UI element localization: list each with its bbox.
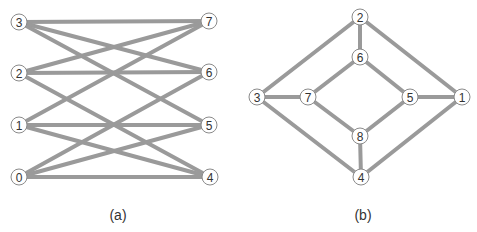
svg-text:7: 7 [206, 15, 213, 29]
svg-text:3: 3 [16, 16, 23, 30]
svg-text:8: 8 [357, 130, 364, 144]
svg-text:4: 4 [358, 171, 365, 185]
node-1: 1 [11, 117, 27, 133]
edge-2-3 [257, 17, 360, 97]
caption-b: (b) [343, 207, 383, 223]
edge-6-7 [308, 57, 360, 97]
svg-text:7: 7 [305, 91, 312, 105]
node-6: 6 [352, 49, 368, 65]
graph-panel-b: 26375184 [249, 9, 470, 185]
svg-text:2: 2 [16, 67, 23, 81]
graph-figure: 32107654 26375184 [0, 0, 477, 232]
caption-a: (a) [98, 207, 138, 223]
node-4: 4 [202, 169, 218, 185]
svg-text:5: 5 [407, 91, 414, 105]
svg-text:5: 5 [206, 119, 213, 133]
edge-5-8 [360, 97, 410, 136]
edge-3-7 [19, 21, 209, 22]
svg-text:3: 3 [254, 91, 261, 105]
svg-text:6: 6 [357, 51, 364, 65]
svg-text:2: 2 [357, 11, 364, 25]
node-3: 3 [11, 14, 27, 30]
node-2: 2 [11, 65, 27, 81]
node-6: 6 [201, 64, 217, 80]
node-7: 7 [201, 13, 217, 29]
svg-text:1: 1 [16, 119, 23, 133]
edge-2-1 [360, 17, 462, 97]
node-0: 0 [11, 169, 27, 185]
svg-text:6: 6 [206, 66, 213, 80]
node-8: 8 [352, 128, 368, 144]
edge-3-4 [257, 97, 361, 177]
node-3: 3 [249, 89, 265, 105]
svg-text:0: 0 [16, 171, 23, 185]
node-5: 5 [201, 117, 217, 133]
edge-7-8 [308, 97, 360, 136]
edge-1-4 [361, 97, 462, 177]
svg-text:4: 4 [207, 171, 214, 185]
graph-panel-a: 32107654 [11, 13, 218, 185]
node-4: 4 [353, 169, 369, 185]
node-1: 1 [454, 89, 470, 105]
edge-6-5 [360, 57, 410, 97]
node-2: 2 [352, 9, 368, 25]
svg-text:1: 1 [459, 91, 466, 105]
node-7: 7 [300, 89, 316, 105]
node-5: 5 [402, 89, 418, 105]
